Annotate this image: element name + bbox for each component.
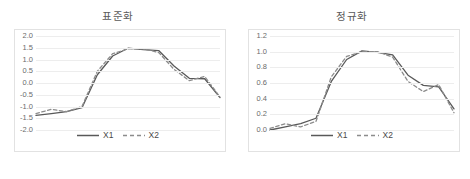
y-axis-tick-label: 0.6 (257, 79, 267, 87)
legend-label: X1 (337, 131, 347, 140)
legend-entry-x2[interactable]: X2 (357, 131, 393, 140)
legend-entry-x1[interactable]: X1 (77, 131, 113, 140)
legend-label: X2 (383, 131, 393, 140)
y-axis-tick-label: -1.0 (20, 103, 33, 111)
legend-entry-x1[interactable]: X1 (311, 131, 347, 140)
gridline (36, 83, 220, 84)
y-axis-tick-label: 0.5 (23, 68, 33, 76)
chart-panel-standardization: 표준화 2.01.51.00.50.0-0.5-1.0-1.5-2.0 X1 X… (4, 0, 232, 179)
legend-swatch-dashed-icon (123, 132, 145, 139)
gridline (270, 36, 454, 37)
y-axis-tick-label: 0.8 (257, 64, 267, 72)
chart-title: 정규화 (238, 8, 466, 23)
plot-area: 1.21.00.80.60.40.20.0 (270, 36, 454, 130)
legend-swatch-dashed-icon (357, 132, 379, 139)
plot-area: 2.01.51.00.50.0-0.5-1.0-1.5-2.0 (36, 36, 220, 130)
y-axis-tick-label: -1.5 (20, 115, 33, 123)
gridline (36, 48, 220, 49)
gridline (270, 52, 454, 53)
chart-legend: X1 X2 (238, 131, 466, 140)
gridline (36, 60, 220, 61)
legend-swatch-solid-icon (77, 132, 99, 139)
chart-legend: X1 X2 (4, 131, 232, 140)
gridline (36, 95, 220, 96)
gridline (270, 83, 454, 84)
legend-entry-x2[interactable]: X2 (123, 131, 159, 140)
y-axis-tick-label: 0.0 (23, 79, 33, 87)
y-axis-tick-label: 1.0 (257, 48, 267, 56)
chart-panel-normalization: 정규화 1.21.00.80.60.40.20.0 X1 X2 (238, 0, 466, 179)
gridline (270, 114, 454, 115)
y-axis-tick-label: 0.4 (257, 95, 267, 103)
gridline (36, 107, 220, 108)
chart-pair-container: 표준화 2.01.51.00.50.0-0.5-1.0-1.5-2.0 X1 X… (0, 0, 470, 179)
gridline (36, 118, 220, 119)
legend-swatch-solid-icon (311, 132, 333, 139)
chart-title: 표준화 (4, 8, 232, 23)
y-axis-tick-label: 1.2 (257, 32, 267, 40)
legend-label: X1 (103, 131, 113, 140)
gridline (36, 36, 220, 37)
gridline (270, 99, 454, 100)
y-axis-tick-label: 1.0 (23, 56, 33, 64)
legend-label: X2 (149, 131, 159, 140)
y-axis-tick-label: -0.5 (20, 91, 33, 99)
y-axis-tick-label: 1.5 (23, 44, 33, 52)
gridline (36, 71, 220, 72)
gridline (270, 67, 454, 68)
series-line-x2 (270, 52, 454, 129)
series-line-x1 (36, 48, 220, 115)
y-axis-tick-label: 0.2 (257, 111, 267, 119)
y-axis-tick-label: 2.0 (23, 32, 33, 40)
